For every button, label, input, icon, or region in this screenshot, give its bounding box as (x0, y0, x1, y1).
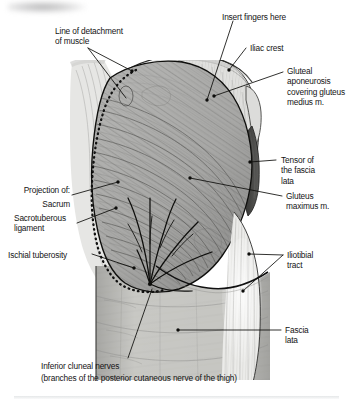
label-iliac-crest: Iliac crest (250, 43, 283, 53)
label-projection-of: Projection of: (0, 185, 70, 195)
label-inferior-cluneal-nerves-sub: (branches of the posterior cutaneous ner… (41, 373, 237, 383)
label-gluteal-aponeurosis: Gluteal aponeurosis covering gluteus med… (287, 66, 345, 108)
label-sacrum: Sacrum (0, 199, 70, 209)
body-mass (70, 55, 274, 383)
label-line-of-detachment: Line of detachment of muscle (55, 26, 123, 47)
label-fascia-lata: Fascia lata (285, 325, 309, 346)
label-sacrotuberous-ligament: Sacrotuberous ligament (14, 213, 66, 234)
label-tensor-fascia-lata: Tensor of the fascia lata (281, 155, 315, 186)
label-iliotibial-tract: Iliotibial tract (287, 250, 313, 271)
label-insert-fingers-here: Insert fingers here (222, 12, 286, 22)
label-inferior-cluneal-nerves: Inferior cluneal nerves (41, 361, 119, 371)
label-ischial-tuberosity: Ischial tuberosity (8, 250, 67, 260)
anatomical-illustration-figure: Line of detachment of muscle Insert fing… (0, 0, 351, 407)
label-gluteus-maximus: Gluteus maximus m. (286, 191, 329, 212)
cluneal-nerve-origin (148, 282, 152, 286)
